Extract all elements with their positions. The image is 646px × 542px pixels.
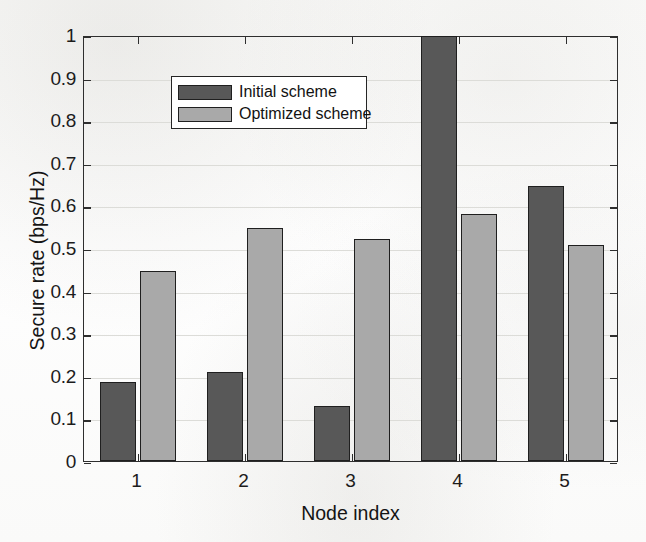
y-tick-mark-right <box>610 207 617 208</box>
y-tick-label: 0.9 <box>50 68 76 90</box>
x-tick-label: 3 <box>345 470 356 492</box>
y-tick-label: 0.7 <box>50 153 76 175</box>
y-tick-mark <box>84 420 91 421</box>
legend-entry-optimized: Optimized scheme <box>178 104 360 124</box>
y-tick-label: 0.3 <box>50 323 76 345</box>
legend: Initial scheme Optimized scheme <box>171 76 367 129</box>
y-tick-label: 1 <box>66 25 76 47</box>
x-tick-mark-top <box>566 37 567 44</box>
y-tick-mark-right <box>610 378 617 379</box>
bar-initial-2 <box>207 372 243 461</box>
y-tick-label: 0.4 <box>50 281 76 303</box>
x-tick-mark-top <box>352 37 353 44</box>
bar-optimized-2 <box>247 228 283 461</box>
y-tick-label: 0.8 <box>50 110 76 132</box>
legend-label-initial: Initial scheme <box>239 84 337 100</box>
x-tick-label: 4 <box>452 470 463 492</box>
bar-initial-4 <box>421 36 457 461</box>
x-tick-mark-top <box>138 37 139 44</box>
y-tick-mark-right <box>610 37 617 38</box>
y-tick-mark-right <box>610 122 617 123</box>
x-tick-mark-top <box>245 37 246 44</box>
y-tick-mark <box>84 165 91 166</box>
bar-initial-3 <box>314 406 350 461</box>
bar-optimized-5 <box>568 245 604 461</box>
figure-canvas: 00.10.20.30.40.50.60.70.80.91 Secure rat… <box>0 0 646 542</box>
x-axis-title: Node index <box>83 502 618 525</box>
plot-area: Initial scheme Optimized scheme <box>83 36 618 462</box>
bar-optimized-4 <box>461 214 497 461</box>
y-tick-mark <box>84 80 91 81</box>
bar-optimized-3 <box>354 239 390 461</box>
x-tick-label: 5 <box>559 470 570 492</box>
x-axis-tick-labels: 12345 <box>83 470 618 500</box>
y-tick-mark <box>84 250 91 251</box>
x-tick-label: 2 <box>238 470 249 492</box>
y-tick-mark-right <box>610 420 617 421</box>
y-tick-mark-right <box>610 80 617 81</box>
y-tick-mark <box>84 207 91 208</box>
y-tick-mark <box>84 37 91 38</box>
y-tick-mark <box>84 335 91 336</box>
x-tick-mark-top <box>459 37 460 44</box>
y-tick-mark-right <box>610 250 617 251</box>
y-tick-mark-right <box>610 335 617 336</box>
y-tick-label: 0.2 <box>50 366 76 388</box>
y-tick-mark-right <box>610 293 617 294</box>
y-tick-mark-right <box>610 463 617 464</box>
legend-label-optimized: Optimized scheme <box>239 106 372 122</box>
y-axis-title: Secure rate (bps/Hz) <box>26 61 49 461</box>
y-tick-mark <box>84 293 91 294</box>
x-tick-label: 1 <box>131 470 142 492</box>
y-tick-label: 0 <box>66 451 76 473</box>
y-tick-mark-right <box>610 165 617 166</box>
legend-entry-initial: Initial scheme <box>178 82 360 102</box>
legend-swatch-optimized-icon <box>178 107 232 122</box>
bar-initial-1 <box>100 382 136 461</box>
y-tick-mark <box>84 463 91 464</box>
y-tick-mark <box>84 122 91 123</box>
y-tick-label: 0.6 <box>50 195 76 217</box>
gridline <box>84 165 617 166</box>
bar-optimized-1 <box>140 271 176 461</box>
bar-initial-5 <box>528 186 564 461</box>
y-tick-label: 0.1 <box>50 408 76 430</box>
y-tick-mark <box>84 378 91 379</box>
y-tick-label: 0.5 <box>50 238 76 260</box>
legend-swatch-initial-icon <box>178 85 232 100</box>
